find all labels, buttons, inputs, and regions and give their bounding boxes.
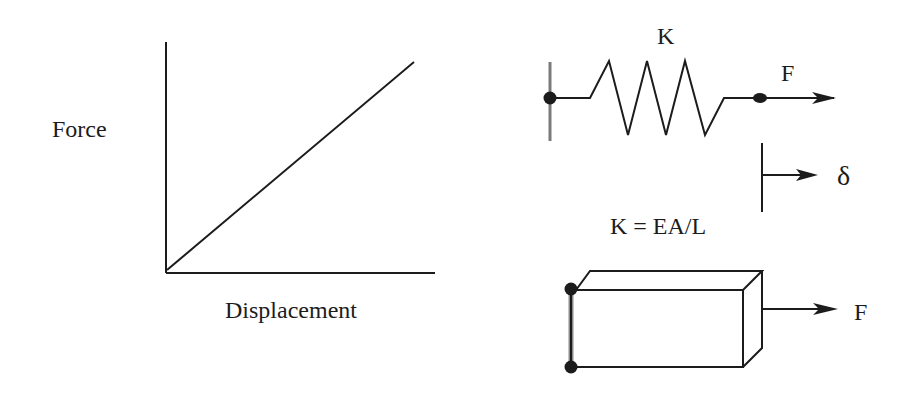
stiffness-formula: K = EA/L <box>610 213 706 239</box>
force-displacement-graph: Force Displacement <box>52 42 435 323</box>
y-axis-label: Force <box>52 116 107 142</box>
bar-top-node <box>565 283 578 296</box>
bar-top-face <box>576 271 762 290</box>
spring-model: K F δ K = EA/L <box>544 23 851 239</box>
x-axis-label: Displacement <box>225 297 357 323</box>
displacement-symbol: δ <box>837 160 850 191</box>
linear-response-line <box>167 62 414 270</box>
spring-icon <box>550 61 760 135</box>
bar-force-label: F <box>854 299 867 325</box>
spring-force-label: F <box>781 60 794 86</box>
spring-bar-diagram: Force Displacement K F δ K = EA/L F <box>0 0 913 395</box>
bar-side-face <box>743 271 762 367</box>
stiffness-label: K <box>657 23 675 49</box>
bar-bottom-node <box>565 361 578 374</box>
bar-model: F <box>565 271 868 374</box>
bar-front-face <box>571 290 743 367</box>
